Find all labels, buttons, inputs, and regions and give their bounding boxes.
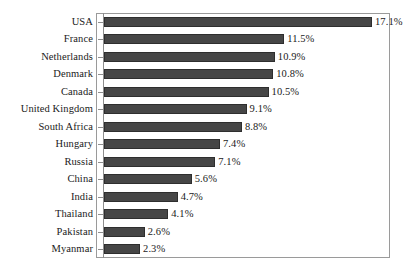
y-axis-tick <box>98 232 103 233</box>
value-label: 4.7% <box>181 191 203 202</box>
y-axis-tick <box>98 249 103 250</box>
bar-row: Myanmar2.3% <box>0 240 419 258</box>
bar-row: USA17.1% <box>0 13 419 31</box>
bar-row: Canada10.5% <box>0 83 419 101</box>
bar <box>104 227 145 237</box>
value-label: 7.1% <box>218 156 240 167</box>
bar <box>104 52 275 62</box>
bar-row: Thailand4.1% <box>0 205 419 223</box>
bar-row: Hungary7.4% <box>0 135 419 153</box>
value-label: 8.8% <box>245 121 267 132</box>
bar <box>104 122 242 132</box>
value-label: 10.8% <box>276 69 304 80</box>
y-axis-tick <box>98 197 103 198</box>
y-axis-tick <box>98 109 103 110</box>
y-axis-tick <box>98 214 103 215</box>
value-label: 10.5% <box>272 86 300 97</box>
category-label: India <box>71 191 93 202</box>
bar <box>104 192 178 202</box>
value-label: 9.1% <box>250 104 272 115</box>
bar-row: South Africa8.8% <box>0 118 419 136</box>
bar-row: United Kingdom9.1% <box>0 100 419 118</box>
value-label: 11.5% <box>287 34 314 45</box>
value-label: 17.1% <box>375 16 403 27</box>
bar <box>104 17 372 27</box>
value-label: 10.9% <box>278 51 306 62</box>
bar-row: France11.5% <box>0 30 419 48</box>
category-label: Thailand <box>55 209 93 220</box>
bar <box>104 87 269 97</box>
category-label: Myanmar <box>51 244 93 255</box>
bar <box>104 174 192 184</box>
category-label: Canada <box>61 86 93 97</box>
category-label: China <box>67 174 93 185</box>
category-label: Denmark <box>53 69 93 80</box>
value-label: 4.1% <box>171 209 193 220</box>
category-label: Russia <box>64 156 93 167</box>
category-label: South Africa <box>38 121 93 132</box>
bar-row: Russia7.1% <box>0 153 419 171</box>
value-label: 2.3% <box>143 244 165 255</box>
y-axis-tick <box>98 39 103 40</box>
category-label: France <box>64 34 93 45</box>
bar <box>104 104 247 114</box>
category-label: Pakistan <box>57 226 93 237</box>
bar <box>104 34 284 44</box>
category-label: Hungary <box>56 139 93 150</box>
y-axis-tick <box>98 162 103 163</box>
y-axis-tick <box>98 74 103 75</box>
bar <box>104 157 215 167</box>
value-label: 7.4% <box>223 139 245 150</box>
y-axis-tick <box>98 144 103 145</box>
category-label: Netherlands <box>41 51 93 62</box>
bar-chart: USA17.1%France11.5%Netherlands10.9%Denma… <box>0 0 419 273</box>
bar <box>104 69 273 79</box>
bar <box>104 244 140 254</box>
value-label: 5.6% <box>195 174 217 185</box>
bar <box>104 209 168 219</box>
bar <box>104 139 220 149</box>
category-label: United Kingdom <box>21 104 93 115</box>
y-axis-tick <box>98 127 103 128</box>
bar-row: India4.7% <box>0 188 419 206</box>
category-label: USA <box>72 16 93 27</box>
bar-row: Pakistan2.6% <box>0 223 419 241</box>
y-axis-tick <box>98 57 103 58</box>
bar-row: China5.6% <box>0 170 419 188</box>
bar-row: Denmark10.8% <box>0 65 419 83</box>
value-label: 2.6% <box>148 226 170 237</box>
bar-row: Netherlands10.9% <box>0 48 419 66</box>
y-axis-tick <box>98 179 103 180</box>
y-axis-tick <box>98 92 103 93</box>
y-axis-tick <box>98 22 103 23</box>
